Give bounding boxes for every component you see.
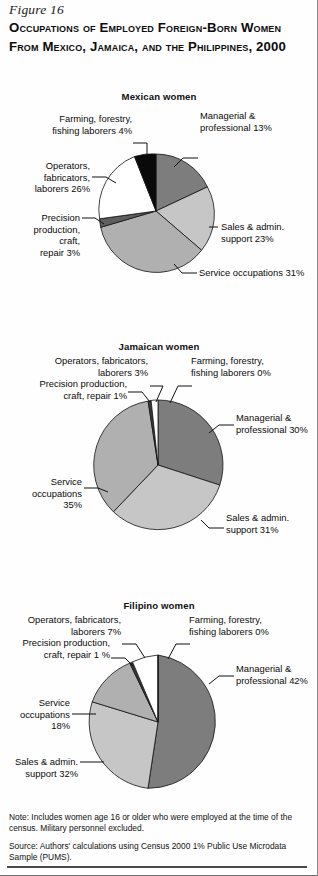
label-service-jamaican: Service occupations 35% [0, 476, 82, 511]
leader-farming [168, 644, 190, 659]
pie-slices-filipino [89, 655, 215, 788]
leader-farming [133, 143, 147, 155]
label-operators-filipino: Operators, fabricators, laborers 7% [0, 614, 121, 637]
pie-slices-mexican [99, 154, 215, 273]
leader-sales [201, 520, 224, 528]
label-service-filipino: Service occupations 18% [0, 697, 70, 732]
figure-page: Figure 16 Occupations of Employed Foreig… [0, 0, 318, 876]
label-sales-jamaican: Sales & admin. support 31% [226, 512, 318, 535]
chart-title-jamaican: Jamaican women [0, 341, 318, 352]
label-managerial-jamaican: Managerial & professional 30% [236, 412, 318, 435]
figure-notes: Note: Includes women age 16 or older who… [9, 812, 305, 864]
label-operators-jamaican: Operators, fabricators, laborers 3% [0, 355, 148, 378]
label-sales-mexican: Sales & admin. support 23% [221, 221, 317, 244]
label-managerial-mexican: Managerial & professional 13% [200, 110, 316, 133]
label-farming-filipino: Farming, forestry, fishing laborers 0% [189, 614, 318, 637]
note-text: Note: Includes women age 16 or older who… [9, 812, 305, 835]
chart-title-mexican: Mexican women [0, 91, 318, 102]
label-service-mexican: Service occupations 31% [199, 267, 318, 279]
label-managerial-filipino: Managerial & professional 42% [236, 663, 318, 686]
label-precision-filipino: Precision production, craft, repair 1 % [0, 637, 110, 660]
figure-number: Figure 16 [9, 2, 64, 18]
label-precision-mexican: Precision production, craft, repair 3% [0, 212, 80, 258]
label-operators-mexican: Operators, fabricators, laborers 26% [0, 160, 90, 195]
label-sales-filipino: Sales & admin. support 32% [0, 756, 78, 779]
pie-slices-jamaican [94, 400, 223, 530]
bottom-rule [7, 866, 307, 868]
page-title: Occupations of Employed Foreign-Born Wom… [9, 18, 301, 56]
leader-farming [170, 386, 192, 403]
leader-operators [122, 644, 145, 658]
leader-managerial [209, 676, 234, 684]
leader-precision [128, 392, 150, 402]
label-farming-jamaican: Farming, forestry, fishing laborers 0% [191, 355, 318, 378]
source-text: Source: Authors' calculations using Cens… [9, 841, 305, 864]
chart-title-filipino: Filipino women [0, 600, 318, 611]
label-precision-jamaican: Precision production, craft, repair 1% [0, 378, 127, 401]
label-farming-mexican: Farming, forestry, fishing laborers 4% [0, 113, 132, 136]
leader-operators [150, 386, 163, 402]
